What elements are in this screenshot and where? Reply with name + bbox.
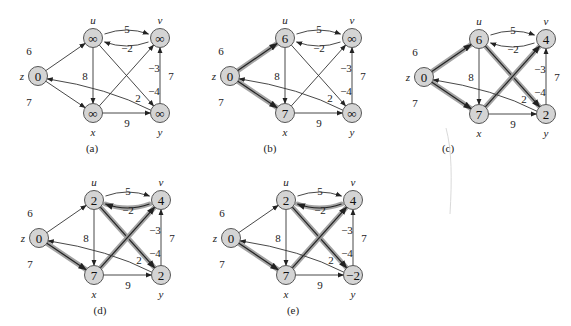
node-distance: ∞ xyxy=(347,31,356,46)
edge-weight: 9 xyxy=(510,118,516,130)
node-u: 2u xyxy=(85,176,104,210)
edge-u-v: 5 xyxy=(106,185,150,197)
edge-y-v: 7 xyxy=(353,210,367,266)
edge-arrow xyxy=(238,43,277,70)
edge-arrow xyxy=(432,44,471,71)
edge-weight: 7 xyxy=(26,96,32,108)
node-y: 2y xyxy=(152,266,171,301)
node-distance: 0 xyxy=(36,231,43,246)
edge-weight: −4 xyxy=(534,86,546,98)
edge-u-x: 8 xyxy=(83,210,94,266)
edge-u-x: 8 xyxy=(275,210,286,266)
node-distance: 0 xyxy=(227,69,234,84)
node-name: v xyxy=(158,14,163,26)
node-v: 4v xyxy=(152,176,171,210)
node-name: y xyxy=(350,288,356,300)
edge-weight: −3 xyxy=(340,62,352,74)
node-z: 0z xyxy=(19,67,48,86)
node-x: 7x xyxy=(85,266,104,301)
node-name: x xyxy=(90,126,96,138)
edge-weight: −3 xyxy=(341,224,353,236)
edge-weight: 7 xyxy=(219,258,225,270)
edge-weight: 6 xyxy=(219,207,225,219)
edge-weight: −3 xyxy=(148,62,160,74)
edge-weight: 7 xyxy=(27,258,33,270)
node-x: 7x xyxy=(277,266,296,301)
node-distance: 2 xyxy=(91,193,98,208)
panel-caption: (e) xyxy=(287,304,300,317)
node-name: u xyxy=(90,14,96,26)
node-name: x xyxy=(282,126,288,138)
node-distance: 4 xyxy=(543,32,550,47)
edge-weight: 7 xyxy=(360,70,366,82)
edge-y-v: 7 xyxy=(161,210,175,266)
node-x: 7x xyxy=(470,105,489,140)
edge-arrow xyxy=(46,43,85,70)
node-distance: 0 xyxy=(421,70,428,85)
edge-y-v: 7 xyxy=(546,49,560,105)
edge-weight: 8 xyxy=(275,232,281,244)
node-distance: 7 xyxy=(476,107,483,122)
edge-y-v: 7 xyxy=(160,48,174,104)
node-v: ∞v xyxy=(151,14,170,48)
edge-weight: −2 xyxy=(122,204,134,216)
node-distance: 2 xyxy=(283,193,290,208)
node-name: y xyxy=(158,288,164,300)
node-name: u xyxy=(476,15,482,27)
node-name: v xyxy=(351,176,356,188)
edge-weight: −4 xyxy=(148,85,160,97)
node-y: 2y xyxy=(537,105,556,140)
node-name: x xyxy=(91,288,97,300)
edge-weight: −2 xyxy=(314,204,326,216)
node-name: x xyxy=(476,127,482,139)
edge-weight: 9 xyxy=(316,117,322,129)
node-name: y xyxy=(349,126,355,138)
edge-weight: 8 xyxy=(468,71,474,83)
edge-weight: −2 xyxy=(313,42,325,54)
edge-arrow xyxy=(239,205,278,232)
edge-arrow xyxy=(47,205,86,232)
edge-weight: −3 xyxy=(149,224,161,236)
node-v: 4v xyxy=(344,176,363,210)
edge-weight: 5 xyxy=(316,23,322,35)
edge-x-y: 9 xyxy=(104,275,152,291)
edge-weight: 2 xyxy=(135,92,141,104)
node-distance: 0 xyxy=(35,69,42,84)
node-distance: 2 xyxy=(158,268,165,283)
node-z: 0z xyxy=(212,229,241,248)
edge-v-u: −2 xyxy=(491,43,535,55)
panel-c: 675−28−4−39720z6u4v7x2y(c) xyxy=(405,15,560,155)
edge-weight: 6 xyxy=(27,207,33,219)
node-name: y xyxy=(543,127,549,139)
node-distance: ∞ xyxy=(88,106,97,121)
bellman-ford-figure: 675−28−4−39720z∞u∞v∞x∞y(a) 675−28−4−3972… xyxy=(0,0,571,326)
node-x: 7x xyxy=(276,104,295,139)
panel-e: 675−28−4−39720z2u4v7x−2y(e) xyxy=(212,176,367,317)
node-distance: 6 xyxy=(282,31,289,46)
edge-u-v: 5 xyxy=(298,185,342,197)
edge-weight: 9 xyxy=(124,117,130,129)
edge-y-v: 7 xyxy=(352,48,366,104)
node-y: −2y xyxy=(344,266,363,301)
node-z: 0z xyxy=(405,68,434,87)
node-name: z xyxy=(405,71,411,83)
node-y: ∞y xyxy=(151,104,170,139)
edge-weight: 6 xyxy=(412,46,418,58)
node-name: x xyxy=(283,288,289,300)
edge-weight: 7 xyxy=(361,232,367,244)
edge-weight: 8 xyxy=(82,70,88,82)
node-distance: ∞ xyxy=(155,31,164,46)
node-name: z xyxy=(19,70,25,82)
edge-u-v: 5 xyxy=(105,23,149,35)
edge-u-x: 8 xyxy=(82,48,93,104)
node-z: 0z xyxy=(211,67,240,86)
node-u: 6u xyxy=(470,15,489,49)
edge-x-y: 9 xyxy=(489,114,537,130)
node-distance: ∞ xyxy=(155,106,164,121)
edge-x-y: 9 xyxy=(103,113,151,129)
edge-weight: 2 xyxy=(521,93,527,105)
panel-d: 675−28−4−39720z2u4v7x2y(d) xyxy=(20,176,175,317)
edge-weight: 9 xyxy=(125,279,131,291)
edge-u-x: 8 xyxy=(468,49,479,105)
node-u: 2u xyxy=(277,176,296,210)
